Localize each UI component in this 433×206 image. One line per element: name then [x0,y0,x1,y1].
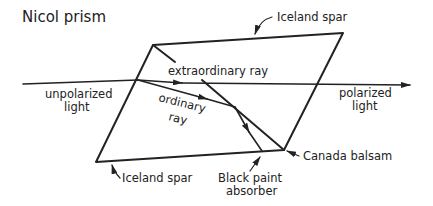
label-extraordinary-ray: extraordinary ray [168,64,268,78]
label-canada-balsam: Canada balsam [303,149,392,163]
label-polarized-light: light [352,99,378,113]
reflected-ordinary-ray [249,132,262,151]
label-unpolarized-light: light [64,100,90,114]
label-black-paint: Black paint [218,171,283,185]
pointer-iceland-spar-bottom [112,165,120,178]
label-absorber: absorber [226,184,277,198]
canada-balsam-cut-upper [153,45,175,62]
canada-balsam-cut-lower [202,80,284,150]
extraordinary-ray [182,83,410,85]
label-polarized: polarized [339,86,392,100]
label-ordinary-ray: ray [167,109,189,127]
label-iceland-spar-top: Iceland spar [277,10,348,24]
pointer-iceland-spar-top [255,17,272,34]
ordinary-ray [207,99,235,107]
nicol-prism-diagram: Nicol prism Iceland spar extraordinary r… [0,0,433,206]
label-unpolarized: unpolarized [45,87,113,101]
diagram-title: Nicol prism [22,8,106,26]
pointer-black-paint [250,157,260,171]
prism-outline [96,33,343,162]
label-iceland-spar-bottom: Iceland spar [122,171,193,185]
incident-ray [23,80,138,84]
pointer-canada-balsam [287,151,299,156]
